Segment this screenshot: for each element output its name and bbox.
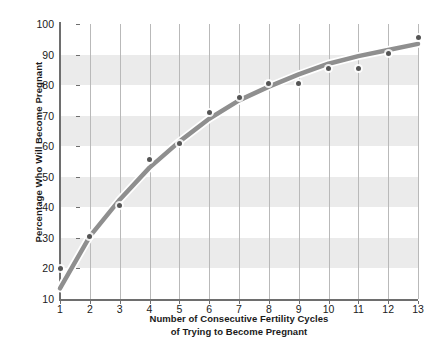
data-point — [356, 66, 361, 71]
y-tick-label: 40 — [28, 202, 54, 212]
gridline-vertical — [418, 24, 419, 299]
chart-figure: Percentage Who Will Become Pregnant 1020… — [0, 0, 441, 349]
y-axis-line — [59, 22, 61, 301]
gridline-vertical — [179, 24, 180, 299]
y-axis-ticks: 102030405060708090100 — [22, 24, 54, 299]
x-tick-mark — [120, 301, 121, 304]
data-point — [177, 141, 182, 146]
y-tick-label: 60 — [28, 141, 54, 151]
y-tick-label: 70 — [28, 111, 54, 121]
data-point — [416, 35, 421, 40]
data-point — [58, 266, 63, 271]
y-tick-label: 20 — [28, 263, 54, 273]
x-axis-title-line1: Number of Consecutive Fertility Cycles — [150, 313, 329, 324]
gridline-vertical — [90, 24, 91, 299]
x-axis-title: Number of Consecutive Fertility Cycles o… — [60, 313, 418, 338]
x-tick-mark — [90, 301, 91, 304]
gridline-vertical — [388, 24, 389, 299]
y-tick-mark — [76, 85, 80, 86]
x-tick-mark — [269, 301, 270, 304]
data-point — [326, 66, 331, 71]
y-tick-mark — [76, 207, 80, 208]
x-tick-mark — [418, 301, 419, 304]
y-tick-mark — [76, 238, 80, 239]
y-tick-label: 100 — [28, 19, 54, 29]
x-tick-mark — [179, 301, 180, 304]
x-tick-mark — [329, 301, 330, 304]
y-tick-mark — [76, 24, 80, 25]
x-axis-title-line2: of Trying to Become Pregnant — [60, 326, 418, 339]
data-point — [386, 51, 391, 56]
gridline-vertical — [269, 24, 270, 299]
y-tick-label: 90 — [28, 50, 54, 60]
gridline-vertical — [209, 24, 210, 299]
data-point — [207, 110, 212, 115]
y-tick-label: 50 — [28, 172, 54, 182]
y-tick-mark — [76, 177, 80, 178]
y-tick-mark — [76, 55, 80, 56]
data-point — [237, 95, 242, 100]
x-tick-mark — [299, 301, 300, 304]
y-tick-mark — [76, 116, 80, 117]
gridline-vertical — [120, 24, 121, 299]
y-tick-mark — [76, 268, 80, 269]
gridline-vertical — [239, 24, 240, 299]
x-tick-mark — [239, 301, 240, 304]
gridline-vertical — [299, 24, 300, 299]
x-tick-mark — [358, 301, 359, 304]
x-tick-mark — [150, 301, 151, 304]
y-tick-label: 80 — [28, 80, 54, 90]
y-tick-mark — [76, 146, 80, 147]
y-tick-label: 30 — [28, 233, 54, 243]
x-tick-mark — [209, 301, 210, 304]
x-tick-mark — [388, 301, 389, 304]
x-tick-mark — [60, 301, 61, 304]
y-tick-mark — [76, 299, 80, 300]
